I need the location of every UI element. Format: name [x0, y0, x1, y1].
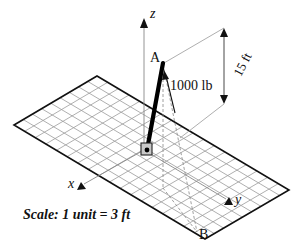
x-axis-label: x	[68, 177, 74, 191]
diagram-canvas: z x y A B 1000 lb 15 ft Scale: 1 unit = …	[0, 0, 304, 250]
y-axis-label: y	[235, 193, 241, 207]
dimension-arrowhead-down-icon	[220, 95, 228, 104]
point-b-label: B	[199, 228, 208, 242]
z-axis-label: z	[150, 7, 155, 21]
point-a-label: A	[150, 51, 160, 65]
pole-base-joint	[145, 148, 150, 153]
scale-label: Scale: 1 unit = 3 ft	[23, 208, 130, 222]
dimension-bottom-leader	[180, 104, 224, 138]
dimension-top-leader	[164, 28, 224, 63]
z-axis-arrowhead-icon	[140, 18, 148, 28]
force-label: 1000 lb	[170, 79, 212, 93]
